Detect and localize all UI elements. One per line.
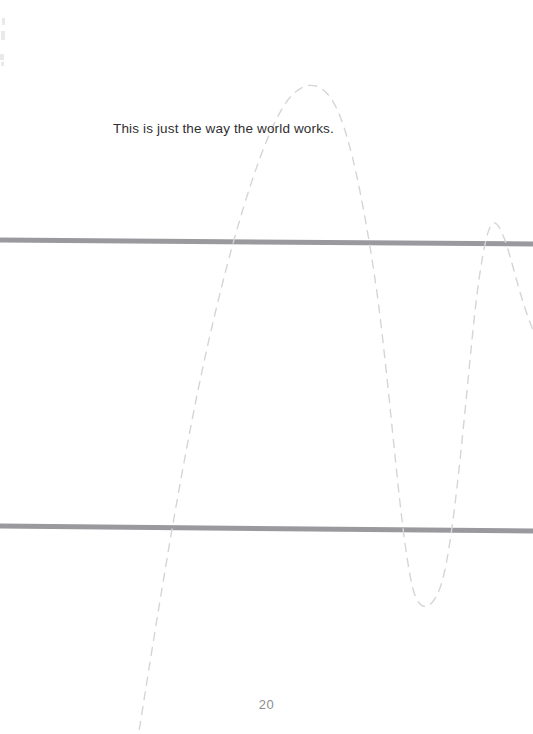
scan-speck (1, 31, 5, 40)
page-number: 20 (0, 697, 533, 712)
page-graphics-layer (0, 0, 533, 734)
scanned-page: This is just the way the world works. 20 (0, 0, 533, 734)
dashed-sine-curve (137, 85, 533, 734)
upper-horizontal-rule (0, 240, 533, 244)
lower-horizontal-rule (0, 526, 533, 531)
scan-speck (0, 54, 4, 60)
scan-speck (1, 62, 4, 66)
page-body-text: This is just the way the world works. (113, 120, 334, 138)
scan-speck (2, 18, 5, 25)
